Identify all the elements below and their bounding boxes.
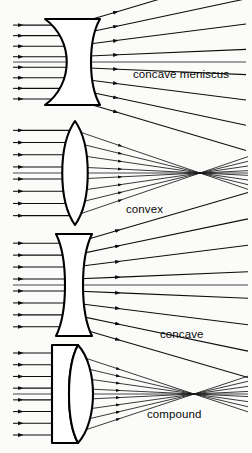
label-convex: convex [126, 203, 163, 215]
outgoing-ray-diverging-5 [118, 84, 246, 100]
outgoing-ray-diverging-5 [120, 309, 248, 325]
panel-convex: convex [13, 121, 248, 225]
outgoing-ray-converging-0 [120, 370, 194, 394]
outgoing-ray-diverging-2 [120, 245, 248, 261]
outgoing-ray-converging-0 [122, 146, 200, 173]
outgoing-ray-diverging-3 [120, 272, 248, 277]
outgoing-ray-converging-7 [122, 173, 200, 200]
outgoing-ray-diverging-6 [118, 98, 246, 125]
panel-concave: concave [13, 192, 248, 377]
outgoing-ray-diverging-7 [120, 340, 248, 377]
label-compound: compound [147, 408, 202, 420]
outgoing-ray-after-focus-7 [200, 157, 248, 173]
outgoing-ray-after-focus-0 [194, 394, 248, 412]
outgoing-ray-diverging-1 [118, 0, 246, 26]
outgoing-ray-diverging-0 [118, 0, 246, 11]
lens-shape-convex [62, 121, 88, 225]
diagram-canvas: concave meniscus convex concave [0, 0, 252, 453]
label-concave: concave [160, 328, 204, 340]
outgoing-ray-after-focus-0 [200, 173, 248, 189]
lens-ray-diagram-figure: concave meniscus convex concave [0, 0, 252, 453]
outgoing-ray-diverging-1 [120, 219, 248, 246]
panel-concave-meniscus: concave meniscus [13, 0, 246, 150]
panel-compound: compound [13, 345, 248, 443]
outgoing-ray-diverging-4 [120, 293, 248, 298]
outgoing-ray-diverging-3 [118, 49, 246, 54]
label-concave-meniscus: concave meniscus [133, 68, 229, 80]
outgoing-ray-diverging-7 [118, 113, 246, 151]
outgoing-ray-diverging-2 [118, 24, 246, 40]
outgoing-ray-after-focus-7 [194, 376, 248, 394]
